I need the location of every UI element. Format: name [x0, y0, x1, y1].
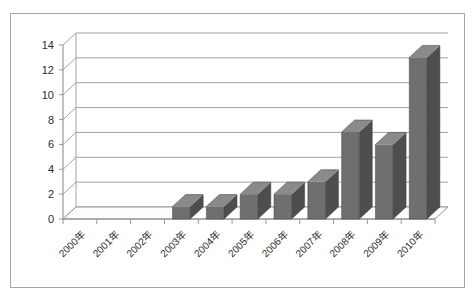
- bar-front-face: [308, 182, 326, 219]
- y-tick-label-6: 6: [48, 138, 54, 150]
- bar-front-face: [240, 194, 258, 219]
- gridline-14: [63, 33, 448, 45]
- gridline-10: [63, 83, 448, 95]
- y-tick-label-2: 2: [48, 188, 54, 200]
- x-tick-label-2007年: 2007年: [293, 228, 324, 259]
- bar-side-face: [393, 132, 406, 219]
- bar-2009年[interactable]: [375, 132, 406, 219]
- bar-front-face: [342, 132, 360, 219]
- bar-side-face: [359, 120, 372, 219]
- bar-chart-plot: 024681012142000年2001年2002年2003年2004年2005…: [11, 14, 466, 289]
- x-tick-label-2008年: 2008年: [327, 228, 358, 259]
- y-tick-label-12: 12: [42, 64, 54, 76]
- y-tick-label-4: 4: [48, 163, 54, 175]
- bar-side-face: [427, 45, 440, 219]
- bar-front-face: [274, 194, 292, 219]
- x-tick-label-2006年: 2006年: [259, 228, 290, 259]
- y-tick-label-10: 10: [42, 89, 54, 101]
- y-tick-label-14: 14: [42, 39, 54, 51]
- bar-2010年[interactable]: [409, 45, 440, 219]
- bar-2008年[interactable]: [342, 120, 373, 219]
- gridline-12: [63, 58, 448, 70]
- x-tick-label-2004年: 2004年: [191, 228, 222, 259]
- gridline-8: [63, 108, 448, 120]
- y-tick-label-8: 8: [48, 114, 54, 126]
- chart-frame: 024681012142000年2001年2002年2003年2004年2005…: [10, 13, 465, 288]
- x-tick-label-2009年: 2009年: [360, 228, 391, 259]
- y-tick-label-0: 0: [48, 213, 54, 225]
- bar-front-face: [173, 207, 191, 219]
- x-tick-label-2005年: 2005年: [225, 228, 256, 259]
- bar-front-face: [206, 207, 224, 219]
- x-tick-label-2003年: 2003年: [157, 228, 188, 259]
- x-tick-label-2002年: 2002年: [124, 228, 155, 259]
- bar-front-face: [375, 144, 393, 219]
- x-tick-label-2001年: 2001年: [90, 228, 121, 259]
- bar-front-face: [409, 57, 427, 219]
- x-tick-label-2000年: 2000年: [56, 228, 87, 259]
- x-tick-label-2010年: 2010年: [394, 228, 425, 259]
